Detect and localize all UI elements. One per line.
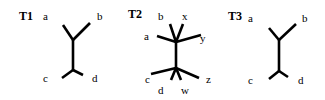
trees-diagram: T1 a b c d T2 b x a y c d w z T3 a b c: [0, 0, 325, 100]
leaf-label-b: b: [158, 10, 164, 22]
tree-t1: T1 a b c d: [19, 9, 103, 84]
leaf-label-z: z: [206, 73, 211, 85]
leaf-label-x: x: [182, 10, 188, 22]
edge-c: [62, 70, 73, 78]
leaf-label-c: c: [43, 72, 48, 84]
tree-title-t1: T1: [19, 9, 33, 23]
edge-y: [176, 35, 201, 42]
edge-b: [279, 24, 296, 40]
tree-t2: T2 b x a y c d w z: [128, 7, 211, 96]
edge-a: [269, 28, 279, 40]
tree-t3: T3 a b c d: [228, 9, 308, 86]
leaf-label-a: a: [248, 12, 253, 24]
leaf-label-a: a: [43, 10, 48, 22]
leaf-label-y: y: [200, 32, 206, 44]
leaf-label-w: w: [181, 84, 189, 96]
leaf-label-d: d: [298, 74, 304, 86]
edge-c: [269, 71, 279, 79]
leaf-label-a: a: [144, 30, 149, 42]
leaf-label-b: b: [97, 10, 103, 22]
tree-title-t2: T2: [128, 7, 142, 21]
leaf-label-d: d: [158, 84, 164, 96]
edge-b: [73, 23, 90, 40]
edge-a: [63, 25, 73, 40]
edge-c: [151, 68, 176, 74]
leaf-label-d: d: [92, 72, 98, 84]
leaf-label-c: c: [145, 73, 150, 85]
leaf-label-b: b: [302, 12, 308, 24]
edge-d: [279, 71, 288, 77]
tree-title-t3: T3: [228, 9, 242, 23]
edge-d: [73, 70, 83, 75]
leaf-label-c: c: [248, 74, 253, 86]
